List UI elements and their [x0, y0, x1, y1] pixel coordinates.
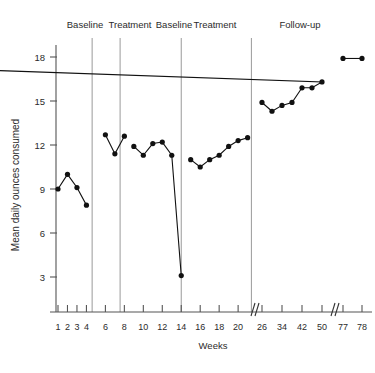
x-tick-label: 12 — [157, 322, 167, 332]
data-point — [84, 203, 89, 208]
phase-label-treatment: Treatment — [109, 19, 152, 30]
y-tick-label: 12 — [34, 140, 45, 151]
x-tick-label: 78 — [357, 322, 367, 332]
data-point — [207, 157, 212, 162]
data-point — [269, 109, 274, 114]
x-tick-label: 26 — [257, 322, 267, 332]
data-point — [150, 141, 155, 146]
data-point — [112, 151, 117, 156]
data-point — [55, 186, 60, 191]
data-point — [217, 153, 222, 158]
data-point — [236, 138, 241, 143]
data-point — [65, 172, 70, 177]
x-tick-label: 16 — [195, 322, 205, 332]
y-axis-title: Mean daily ounces consumed — [10, 119, 21, 251]
x-tick-label: 14 — [176, 322, 186, 332]
y-tick-label: 15 — [34, 96, 45, 107]
line-chart: BaselineTreatmentBaselineTreatmentFollow… — [0, 0, 375, 373]
data-point — [359, 56, 364, 61]
phase-label-baseline2: Baseline — [156, 19, 192, 30]
x-tick-label: 2 — [65, 322, 70, 332]
y-tick-label: 6 — [40, 228, 45, 239]
x-tick-label: 50 — [317, 322, 327, 332]
x-tick-label: 4 — [84, 322, 89, 332]
x-axis-title: Weeks — [199, 340, 228, 351]
data-point — [131, 144, 136, 149]
x-tick-label: 10 — [138, 322, 148, 332]
x-tick-label: 77 — [338, 322, 348, 332]
data-point — [319, 79, 324, 84]
data-point — [289, 100, 294, 105]
data-point — [226, 144, 231, 149]
chart-container: BaselineTreatmentBaselineTreatmentFollow… — [0, 0, 375, 373]
x-tick-label: 18 — [214, 322, 224, 332]
data-point — [160, 139, 165, 144]
phase-label-treatment2: Treatment — [194, 19, 237, 30]
data-point — [169, 153, 174, 158]
y-tick-label: 3 — [40, 272, 45, 283]
x-tick-label: 3 — [74, 322, 79, 332]
data-point — [122, 134, 127, 139]
phase-label-follow-up: Follow-up — [279, 19, 320, 30]
phase-label-baseline: Baseline — [67, 19, 103, 30]
data-point — [299, 85, 304, 90]
data-point — [74, 185, 79, 190]
data-point — [340, 56, 345, 61]
data-point — [103, 132, 108, 137]
x-tick-label: 6 — [103, 322, 108, 332]
x-tick-label: 1 — [55, 322, 60, 332]
x-tick-label: 42 — [297, 322, 307, 332]
data-point — [179, 273, 184, 278]
y-tick-label: 18 — [34, 52, 45, 63]
data-point — [198, 164, 203, 169]
data-point — [309, 85, 314, 90]
y-tick-label: 9 — [40, 184, 45, 195]
x-tick-label: 20 — [233, 322, 243, 332]
data-point — [279, 103, 284, 108]
x-tick-label: 8 — [122, 322, 127, 332]
x-tick-label: 34 — [277, 322, 287, 332]
data-point — [188, 157, 193, 162]
data-point — [141, 153, 146, 158]
data-point — [259, 100, 264, 105]
data-point — [245, 135, 250, 140]
